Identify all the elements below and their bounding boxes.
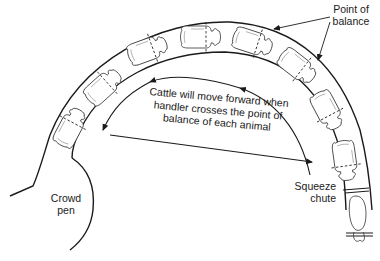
squeeze-chute-line2: chute [286,192,336,204]
point-of-balance-line2: balance [326,15,376,27]
point-of-balance-label: Point of balance [326,3,376,27]
crowd-pen-line1: Crowd [48,192,84,204]
crowd-pen-line2: pen [48,204,84,216]
point-of-balance-line1: Point of [326,3,376,15]
curved-chute-diagram [0,0,380,261]
crowd-pen-label: Crowd pen [48,192,84,216]
return-arrow [110,135,312,162]
squeeze-chute-line1: Squeeze [286,180,336,192]
squeeze-chute [343,188,373,241]
squeeze-chute-label: Squeeze chute [286,180,336,204]
